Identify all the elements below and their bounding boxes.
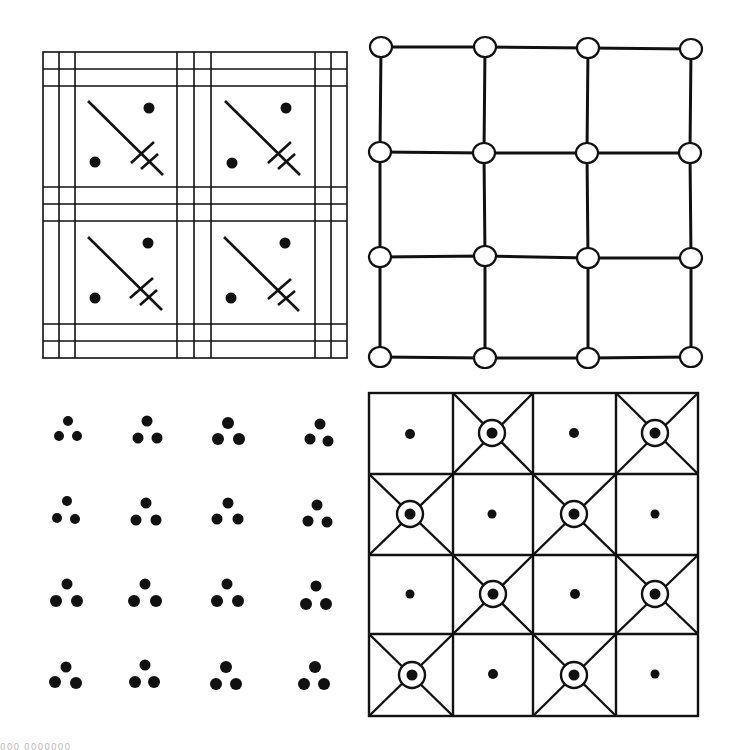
sword-motif bbox=[225, 101, 300, 175]
sword-motif bbox=[224, 237, 299, 311]
lattice-nodes bbox=[369, 37, 702, 368]
node-lattice-panel bbox=[380, 47, 691, 358]
dot-triads-panel bbox=[49, 416, 334, 691]
sword-motif bbox=[88, 237, 162, 310]
figure-canvas bbox=[0, 0, 732, 750]
caption-fragment: 000 0000000 bbox=[0, 742, 71, 750]
sword-motif bbox=[88, 101, 163, 175]
plaid-grid-panel bbox=[43, 52, 347, 358]
